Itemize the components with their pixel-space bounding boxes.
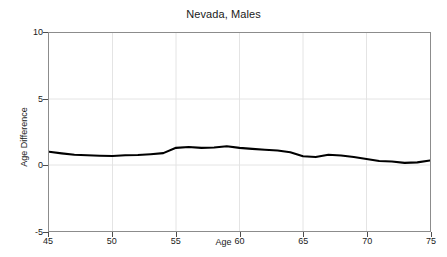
y-tick-mark <box>43 99 48 100</box>
y-tick-mark <box>43 165 48 166</box>
y-tick-mark <box>43 32 48 33</box>
y-tick-label: -5 <box>0 227 43 237</box>
y-tick-label: 10 <box>0 27 43 37</box>
chart-title: Nevada, Males <box>0 8 447 20</box>
y-axis-label: Age Difference <box>19 87 29 187</box>
x-axis-label: Age <box>0 237 447 247</box>
data-line-series <box>49 33 430 231</box>
chart-figure: Nevada, Males -50510 45505560657075 Age … <box>0 0 447 257</box>
plot-area <box>48 32 431 232</box>
